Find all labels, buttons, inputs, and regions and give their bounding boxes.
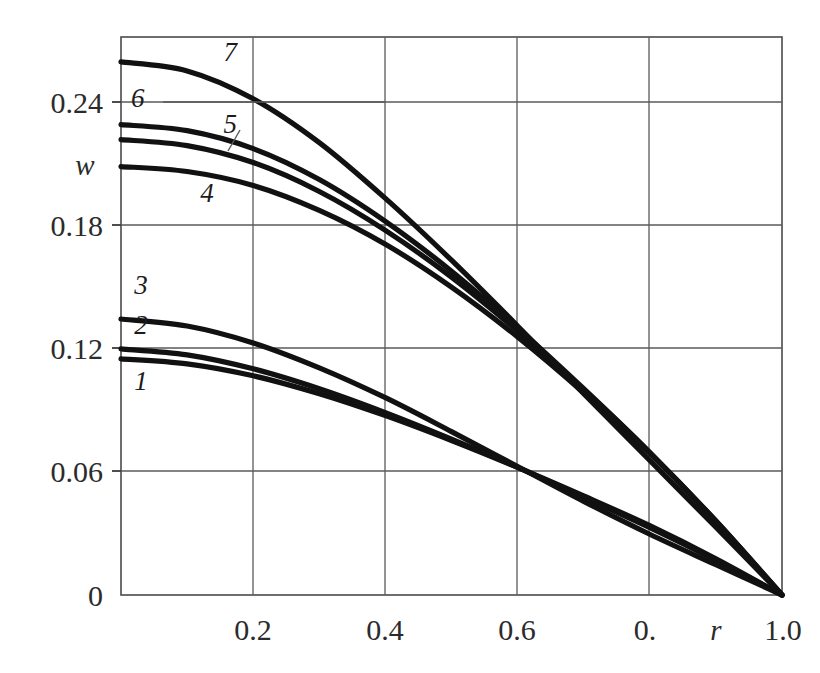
x-tick-label-10: 1.0 [764,613,802,646]
x-axis-title: r [710,614,722,646]
x-tick-label-08: 0. [634,613,657,646]
y-tick-label-006: 0.06 [51,455,104,488]
curve-label-5: 5 [224,109,238,139]
chart-svg: 0.24 0.18 0.12 0.06 0 w 0.2 0.4 0.6 0. 1… [0,0,820,673]
curve-series-2 [121,349,782,595]
curve-label-7: 7 [224,37,239,67]
chart-figure: 0.24 0.18 0.12 0.06 0 w 0.2 0.4 0.6 0. 1… [0,0,820,673]
y-axis-title: w [75,149,95,181]
x-tick-label-02: 0.2 [234,613,272,646]
data-curves [121,62,782,595]
curve-series-1 [121,359,782,595]
curve-label-1: 1 [134,366,148,396]
curve-label-3: 3 [133,270,148,300]
y-tick-label-024: 0.24 [51,86,104,119]
curve-series-7 [121,62,782,595]
y-tick-label-0: 0 [88,579,103,612]
y-tick-label-018: 0.18 [51,209,104,242]
curve-annotations: 1 2 3 4 5 6 7 [131,37,239,396]
vertical-gridlines [253,37,649,595]
curve-series-4 [121,167,782,595]
curve-label-2: 2 [134,310,148,340]
x-tick-label-04: 0.4 [366,613,404,646]
y-tick-label-012: 0.12 [51,332,104,365]
x-tick-label-06: 0.6 [498,613,536,646]
curve-label-6: 6 [131,83,145,113]
y-axis-tickmarks [112,102,121,471]
plot-frame [121,37,782,595]
curve-label-4: 4 [200,178,214,208]
